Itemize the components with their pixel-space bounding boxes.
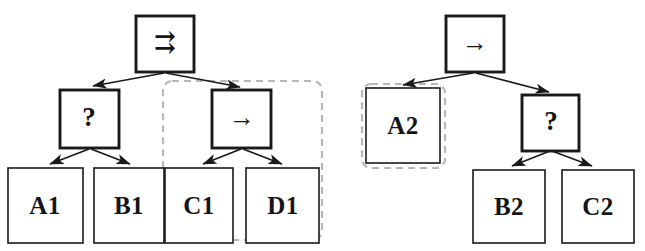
leaf-b2[interactable]: B2 (473, 170, 545, 243)
leaf-c2[interactable]: C2 (562, 170, 634, 243)
leaf-c1[interactable]: C1 (165, 168, 233, 243)
edge-question2-to-b2 (512, 151, 550, 166)
leaf-d1-label: D1 (267, 192, 299, 219)
edge-question1-to-b1 (91, 149, 130, 164)
leaf-c2-label: C2 (582, 193, 614, 220)
node-arrow-1[interactable]: → (212, 90, 271, 148)
leaf-a1[interactable]: A1 (8, 168, 83, 243)
leaf-a2[interactable]: A2 (366, 88, 440, 163)
node-root-1[interactable]: ⇉ (136, 16, 194, 72)
diagram-canvas: ⇉ ? → A1 B1 (0, 0, 645, 251)
tree-1: ⇉ ? → A1 B1 (8, 16, 322, 243)
question-mark-symbol: ? (544, 106, 558, 136)
leaf-c1-label: C1 (183, 192, 215, 219)
leaf-d1[interactable]: D1 (246, 168, 319, 243)
question-mark-symbol: ? (82, 102, 96, 132)
node-q-2[interactable]: ? (522, 95, 579, 151)
node-q-1[interactable]: ? (60, 90, 119, 148)
edge-arrow1-to-c1 (203, 149, 241, 164)
leaf-b1[interactable]: B1 (94, 168, 164, 243)
rightarrow-symbol: → (229, 103, 255, 132)
leaf-a2-label: A2 (387, 112, 419, 139)
leaf-b1-label: B1 (114, 192, 144, 219)
tree-2: → A2 ? B2 C2 (362, 16, 634, 243)
rightarrow-symbol: → (462, 28, 488, 57)
edge-arrow1-to-d1 (243, 149, 282, 164)
edge-root2-to-question (476, 73, 549, 92)
edge-question1-to-a1 (50, 149, 89, 164)
leaf-b2-label: B2 (494, 193, 524, 220)
edge-question2-to-c2 (552, 151, 592, 166)
edge-root1-to-question (93, 73, 164, 86)
rightrightarrows-symbol: ⇉ (154, 28, 176, 57)
leaf-a1-label: A1 (29, 192, 61, 219)
term-tree-diagram: ⇉ ? → A1 B1 (0, 0, 645, 251)
node-root-2[interactable]: → (446, 16, 504, 72)
